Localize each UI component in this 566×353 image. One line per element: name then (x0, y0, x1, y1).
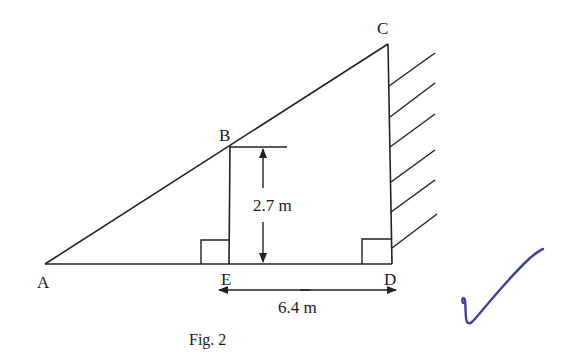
point-label-D: D (384, 270, 396, 289)
point-label-C: C (377, 19, 388, 38)
check-mark-icon (462, 249, 543, 323)
right-angle-marker-D (362, 239, 391, 264)
wall-CD (388, 44, 392, 264)
line-BE (229, 146, 230, 264)
diagram-canvas: 2.7 m 6.4 m A B C D E Fig. 2 (0, 0, 566, 353)
figure-caption: Fig. 2 (189, 331, 226, 349)
point-label-A: A (37, 273, 50, 292)
line-AC (45, 44, 388, 264)
wall-hatching (389, 53, 437, 248)
point-label-E: E (221, 270, 231, 289)
dimension-label-ED: 6.4 m (278, 298, 317, 317)
dimension-label-BE: 2.7 m (253, 196, 292, 215)
point-label-B: B (219, 126, 230, 145)
right-angle-marker-E (201, 240, 229, 264)
